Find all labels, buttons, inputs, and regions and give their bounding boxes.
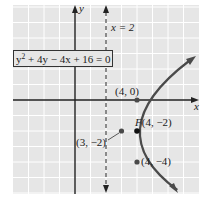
vertex-label: (3, −2) bbox=[76, 136, 106, 149]
point-4-neg4-label: (4, −4) bbox=[141, 155, 171, 168]
equation-label: y2 + 4y − 4x + 16 = 0 bbox=[16, 52, 111, 65]
point-4-neg4 bbox=[134, 159, 139, 164]
y-axis-label: y bbox=[78, 2, 84, 14]
parabola-chart: y2 + 4y − 4x + 16 = 0 y x x = 2 (4, 0) (… bbox=[0, 0, 207, 203]
focus-point bbox=[134, 128, 140, 134]
focus-label: F(4, −2) bbox=[134, 116, 172, 129]
point-4-0 bbox=[134, 97, 139, 102]
vertex-point bbox=[119, 128, 124, 133]
x-axis-label: x bbox=[193, 100, 199, 112]
directrix-label: x = 2 bbox=[110, 21, 135, 33]
point-4-0-label: (4, 0) bbox=[115, 85, 139, 98]
